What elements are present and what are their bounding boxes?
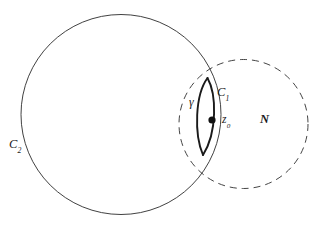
label-c1-base: C (217, 85, 225, 99)
point-z0-dot (208, 116, 215, 123)
figure-canvas: C2 C1 z0 γ N (0, 0, 319, 227)
label-n: N (260, 113, 269, 126)
label-z0-base: z (222, 113, 226, 125)
label-c1-subscript: 1 (226, 94, 230, 103)
arc-gamma (197, 78, 207, 155)
label-z0: z0 (222, 114, 230, 128)
circle-c2 (21, 15, 221, 215)
diagram-svg (0, 0, 319, 227)
label-c2-subscript: 2 (18, 146, 22, 155)
label-c2: C2 (9, 138, 21, 153)
label-c2-base: C (9, 137, 17, 151)
label-z0-subscript: 0 (227, 122, 231, 130)
label-c1: C1 (217, 86, 229, 101)
circle-n (179, 60, 308, 189)
label-gamma: γ (189, 96, 194, 108)
